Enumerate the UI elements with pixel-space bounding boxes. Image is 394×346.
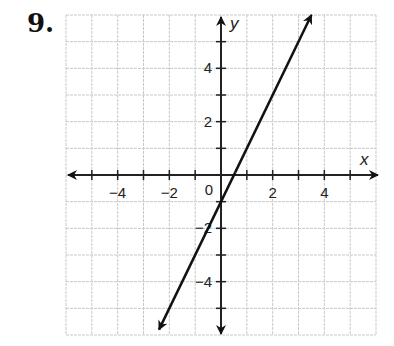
axes — [68, 17, 378, 334]
x-tick-label: −4 — [109, 184, 126, 201]
y-tick-label: −4 — [195, 273, 212, 290]
x-tick-label: 2 — [268, 184, 276, 201]
y-tick-label: 2 — [204, 113, 212, 130]
origin-label: 0 — [205, 181, 213, 198]
tick-labels: −4−22442−2−40xy — [109, 14, 369, 290]
plotted-line — [159, 15, 311, 330]
y-axis-label: y — [229, 14, 240, 33]
x-tick-label: −2 — [161, 184, 178, 201]
coordinate-plane-chart: −4−22442−2−40xy — [0, 0, 394, 346]
x-tick-label: 4 — [320, 184, 328, 201]
x-axis-label: x — [359, 150, 369, 169]
y-tick-label: 4 — [204, 59, 212, 76]
